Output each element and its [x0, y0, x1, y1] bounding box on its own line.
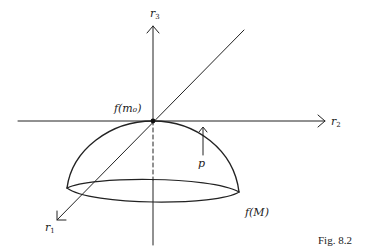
f-m0-label: f(m₀): [114, 103, 142, 114]
p-label: p: [198, 158, 205, 169]
r3-label: r3: [150, 8, 160, 21]
f-M-label: f(M): [245, 207, 269, 218]
figure-8-2: r3 r2 r1 f(m₀) p f(M) Fig. 8.2: [0, 0, 365, 250]
diagram-canvas: [0, 0, 365, 250]
r1-label: r1: [45, 222, 55, 235]
r2-label: r2: [331, 116, 341, 129]
origin-point: [151, 119, 156, 124]
r1-axis: [57, 30, 244, 220]
figure-caption: Fig. 8.2: [318, 234, 352, 246]
